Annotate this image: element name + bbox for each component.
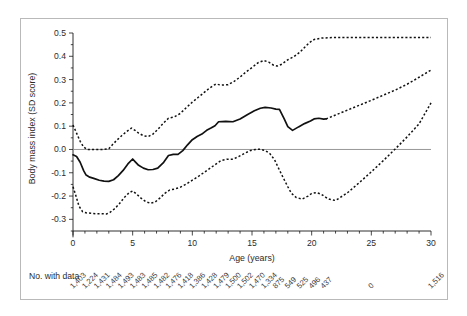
y-tick-label: 0.5 bbox=[54, 28, 66, 38]
x-tick-label: 15 bbox=[247, 238, 257, 248]
y-tick-label: 0.3 bbox=[54, 75, 66, 85]
y-tick-label: 0.0 bbox=[54, 144, 66, 154]
series-line-1 bbox=[73, 107, 326, 181]
y-tick-label: 0.1 bbox=[54, 121, 66, 131]
series-line-2 bbox=[73, 37, 431, 149]
series-line-4 bbox=[326, 70, 431, 119]
count-label-age-25: 0 bbox=[366, 281, 375, 290]
count-label-age-30: 1,516 bbox=[426, 271, 446, 291]
x-axis-title: Age (years) bbox=[229, 253, 275, 263]
y-tick-label: -0.3 bbox=[51, 214, 66, 224]
count-label-age-21: 437 bbox=[319, 275, 334, 290]
x-tick-label: 10 bbox=[188, 238, 198, 248]
x-tick-label: 25 bbox=[367, 238, 377, 248]
x-tick-label: 30 bbox=[426, 238, 436, 248]
y-tick-label: -0.2 bbox=[51, 191, 66, 201]
x-tick-label: 20 bbox=[307, 238, 317, 248]
x-tick-label: 5 bbox=[130, 238, 135, 248]
bmi-sd-score-chart: -0.3-0.2-0.10.00.10.20.30.40.50510152025… bbox=[21, 19, 449, 301]
y-tick-label: 0.4 bbox=[54, 51, 66, 61]
figure-panel: -0.3-0.2-0.10.00.10.20.30.40.50510152025… bbox=[20, 18, 448, 300]
series-line-3 bbox=[73, 103, 431, 214]
y-tick-label: -0.1 bbox=[51, 168, 66, 178]
y-tick-label: 0.2 bbox=[54, 98, 66, 108]
y-axis-title: Body mass index (SD score) bbox=[27, 73, 37, 185]
x-tick-label: 0 bbox=[71, 238, 76, 248]
